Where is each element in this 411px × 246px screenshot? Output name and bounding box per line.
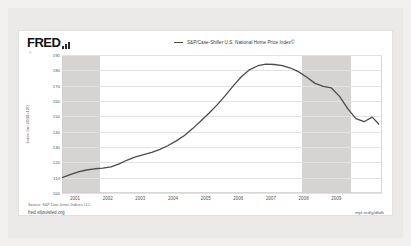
y-axis-tick-label: 120: [36, 160, 60, 165]
x-axis-tick-label: 2006: [233, 196, 243, 201]
x-axis-tick-label: 2003: [135, 196, 145, 201]
series-line-chart: [62, 55, 382, 193]
x-axis-tick-label: 2005: [201, 196, 211, 201]
y-axis-tick-label: 150: [36, 114, 60, 119]
y-axis-tick-label: 160: [36, 99, 60, 104]
fred-chart-screenshot: FRED ® S&P/Case-Shiller U.S. National Ho…: [0, 0, 411, 246]
x-axis-ticks: 200120022003200420052006200720082009: [62, 196, 382, 206]
gridline: [62, 193, 382, 194]
fred-graph-card: FRED ® S&P/Case-Shiller U.S. National Ho…: [18, 30, 393, 216]
fred-logo-text: FRED: [27, 37, 60, 49]
y-axis-tick-label: 140: [36, 129, 60, 134]
y-axis-tick-label: 190: [36, 53, 60, 58]
source-note: Source: S&P Dow Jones Indices LLC: [28, 203, 91, 207]
x-axis-tick-label: 2009: [331, 196, 341, 201]
legend-item-label: S&P/Case-Shiller U.S. National Home Pric…: [187, 40, 294, 45]
y-axis-tick-label: 100: [36, 191, 60, 196]
plot-area: [62, 55, 382, 193]
x-axis-tick-label: 2008: [299, 196, 309, 201]
chart-legend: S&P/Case-Shiller U.S. National Home Pric…: [174, 40, 294, 45]
x-axis-tick-label: 2001: [70, 196, 80, 201]
y-axis-ticks: 100110120130140150160170180190: [34, 55, 60, 193]
y-axis-tick-label: 180: [36, 68, 60, 73]
series-line-case-shiller: [62, 64, 379, 177]
y-axis-tick-label: 110: [36, 175, 60, 180]
bar-chart-icon: [62, 41, 70, 49]
fred-site-url[interactable]: fred.stlouisfed.org: [28, 210, 65, 215]
legend-swatch-icon: [174, 42, 183, 44]
x-axis-tick-label: 2002: [103, 196, 113, 201]
x-axis-tick-label: 2007: [266, 196, 276, 201]
y-axis-tick-label: 170: [36, 83, 60, 88]
x-axis-tick-label: 2004: [168, 196, 178, 201]
y-axis-tick-label: 130: [36, 145, 60, 150]
graph-short-url[interactable]: myf.red/g/dkdk: [355, 210, 384, 215]
fred-logo[interactable]: FRED: [27, 37, 70, 49]
y-axis-title: Index Jan 2000=100: [22, 55, 32, 193]
